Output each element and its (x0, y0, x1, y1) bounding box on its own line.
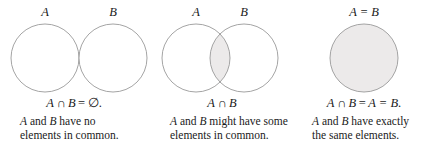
formula-set-a: A (207, 96, 215, 110)
caption-line-2: elements in common. (170, 129, 288, 143)
circle-label-a: A (33, 4, 57, 20)
formula-equal: A ∩ B = A = B. (296, 96, 432, 111)
formula-period: . (99, 96, 102, 110)
panel-overlapping-sets: A B A ∩ B A and B might have some (148, 0, 296, 146)
caption-line-2: the same elements. (312, 129, 409, 143)
caption-line-1: A and B have exactly (312, 115, 409, 129)
caption-text-rest: have exactly (348, 115, 409, 127)
caption-overlap: A and B might have some elements in comm… (170, 115, 288, 142)
circle-label-b: B (101, 4, 125, 20)
venn-canvas-overlap (148, 22, 296, 94)
set-circle-a (11, 24, 79, 92)
intersection-operator-icon: ∩ (217, 96, 226, 110)
caption-line-1: A and B might have some (170, 115, 288, 129)
formula-disjoint: A ∩ B = ∅. (0, 96, 148, 111)
formula-overlap: A ∩ B (148, 96, 296, 111)
venn-canvas-disjoint (0, 22, 148, 94)
caption-text-rest: have no (56, 115, 95, 127)
formula-result: A = B (368, 96, 398, 110)
circle-label-b: B (232, 4, 256, 20)
intersection-operator-icon: ∩ (337, 96, 346, 110)
caption-line-1: A and B have no (20, 115, 119, 129)
caption-conjunction: and (177, 115, 199, 127)
formula-set-a: A (46, 96, 54, 110)
caption-var-a: A (20, 115, 27, 127)
venn-diagram-figure: A B A ∩ B = ∅. A and B have no elements … (0, 0, 432, 146)
set-circle-a-equals-b (330, 24, 398, 92)
venn-label-row: A B (0, 4, 148, 22)
panel-equal-sets: A = B A ∩ B = A = B. A and B have exactl… (296, 0, 432, 146)
caption-text-rest: might have some (206, 115, 287, 127)
empty-set-icon: ∅ (88, 96, 99, 110)
venn-label-row: A B (148, 4, 296, 22)
equals-operator: = (359, 96, 366, 110)
caption-var-a: A (312, 115, 319, 127)
caption-var-a: A (170, 115, 177, 127)
formula-period: . (398, 96, 401, 110)
caption-conjunction: and (27, 115, 49, 127)
caption-line-2: elements in common. (20, 129, 119, 143)
set-circle-b (79, 24, 147, 92)
circle-label-a-equals-b: A = B (340, 4, 388, 20)
panel-disjoint-sets: A B A ∩ B = ∅. A and B have no elements … (0, 0, 148, 146)
circle-label-a: A (184, 4, 208, 20)
venn-canvas-equal (296, 22, 432, 94)
caption-conjunction: and (319, 115, 341, 127)
formula-set-b: B (68, 96, 76, 110)
caption-disjoint: A and B have no elements in common. (20, 115, 119, 142)
venn-label-row: A = B (296, 4, 432, 22)
caption-equal: A and B have exactly the same elements. (312, 115, 409, 142)
formula-set-b: B (229, 96, 237, 110)
